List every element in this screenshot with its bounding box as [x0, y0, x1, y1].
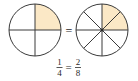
- denominator-left: 4: [57, 68, 62, 78]
- equals-sign-circles: =: [66, 24, 73, 38]
- circle-quarters: [9, 4, 61, 56]
- fraction-equivalence-diagram: = 1 4 = 2 8: [0, 0, 138, 81]
- numerator-right: 2: [76, 57, 81, 67]
- circle-eighths: [76, 4, 128, 56]
- equals-sign-equation: =: [65, 61, 71, 73]
- denominator-right: 8: [76, 68, 81, 78]
- numerator-left: 1: [57, 57, 62, 67]
- equation: 1 4 = 2 8: [57, 57, 82, 78]
